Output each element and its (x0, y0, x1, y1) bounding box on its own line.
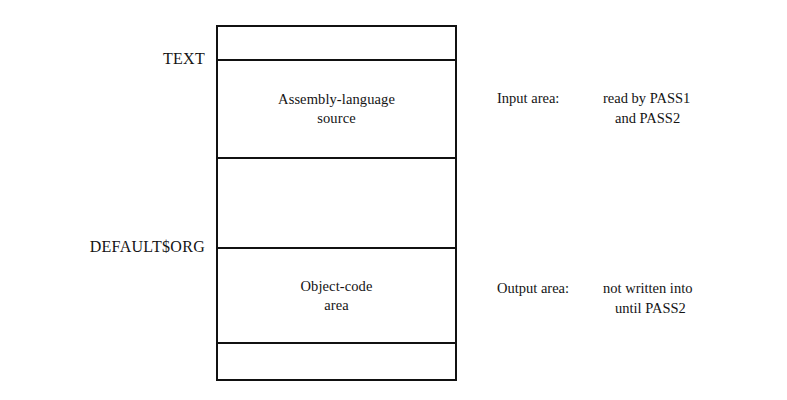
memory-band-bottom-reserved (218, 344, 455, 379)
address-label-default-org: DEFAULT$ORG (0, 238, 205, 256)
memory-band-object-code-label: Object-code area (301, 277, 373, 315)
memory-band-object-code: Object-code area (218, 249, 455, 344)
memory-band-top-reserved (218, 27, 455, 61)
output-area-annotation-label: Output area: (497, 278, 603, 298)
assembly-source-line-2: source (317, 110, 355, 126)
output-area-annotation-line-2: until PASS2 (603, 298, 692, 318)
output-area-annotation-line-1: not written into (603, 280, 692, 296)
address-label-text: TEXT (0, 50, 205, 68)
input-area-annotation: Input area: read by PASS1 and PASS2 (497, 88, 690, 128)
memory-map-diagram: Assembly-language source Object-code are… (216, 25, 457, 381)
object-code-line-2: area (324, 297, 349, 313)
input-area-annotation-label: Input area: (497, 88, 603, 108)
output-area-annotation-body: not written into until PASS2 (603, 278, 692, 318)
memory-band-assembly-source: Assembly-language source (218, 61, 455, 159)
input-area-annotation-line-1: read by PASS1 (603, 90, 690, 106)
object-code-line-1: Object-code (301, 278, 373, 294)
diagram-canvas: TEXT DEFAULT$ORG Assembly-language sourc… (0, 0, 787, 400)
memory-band-unused-gap (218, 159, 455, 249)
memory-band-assembly-source-label: Assembly-language source (278, 90, 395, 128)
output-area-annotation: Output area: not written into until PASS… (497, 278, 692, 318)
assembly-source-line-1: Assembly-language (278, 91, 395, 107)
input-area-annotation-body: read by PASS1 and PASS2 (603, 88, 690, 128)
input-area-annotation-line-2: and PASS2 (603, 108, 690, 128)
